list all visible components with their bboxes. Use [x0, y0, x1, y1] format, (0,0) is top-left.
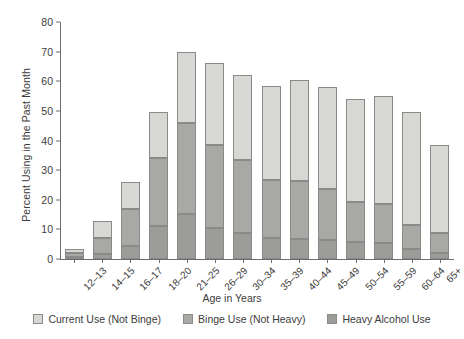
bar-segment-heavy [346, 242, 365, 259]
bar-60-64 [402, 112, 421, 259]
bar-segment-heavy [233, 233, 252, 259]
bar-35-39 [262, 86, 281, 259]
bar-segment-binge [149, 158, 168, 227]
bar-segment-current [93, 221, 112, 239]
y-tick-mark [56, 229, 60, 230]
bar-segment-binge [233, 160, 252, 233]
legend-swatch-binge [183, 314, 193, 324]
bar-segment-current [121, 182, 140, 209]
bar-segment-current [318, 87, 337, 189]
x-tick-label: 21–25 [194, 265, 221, 292]
x-tick-label: 14–15 [109, 265, 136, 292]
bar-segment-binge [177, 123, 196, 214]
bar-55-59 [374, 96, 393, 259]
bar-segment-heavy [177, 214, 196, 259]
x-tick-mark [130, 259, 131, 263]
bar-segment-heavy [290, 239, 309, 259]
x-tick-mark [356, 259, 357, 263]
bar-segment-heavy [205, 228, 224, 259]
y-tick-label: 0 [8, 253, 60, 265]
x-tick-label: 50–54 [363, 265, 390, 292]
y-tick-label: 60 [8, 75, 60, 87]
bar-segment-heavy [318, 240, 337, 259]
bar-segment-current [402, 112, 421, 225]
x-tick-label: 16–17 [137, 265, 164, 292]
bar-segment-binge [318, 189, 337, 241]
bar-65+ [430, 145, 449, 259]
bar-12-13 [65, 249, 84, 259]
bar-segment-binge [402, 225, 421, 249]
y-axis-line [60, 22, 61, 259]
y-tick-mark [56, 110, 60, 111]
y-tick-mark [56, 51, 60, 52]
bar-26-29 [205, 63, 224, 259]
bar-50-54 [346, 99, 365, 259]
x-tick-mark [215, 259, 216, 263]
plot-area: 01020304050607080 [60, 22, 454, 259]
legend-label-heavy: Heavy Alcohol Use [342, 313, 430, 325]
bar-segment-current [262, 86, 281, 180]
y-tick-mark [56, 22, 60, 23]
y-tick-label: 70 [8, 46, 60, 58]
y-tick-label: 30 [8, 164, 60, 176]
alcohol-use-by-age-chart: Percent Using in the Past Month 01020304… [0, 0, 464, 339]
x-tick-mark [440, 259, 441, 263]
legend-item-binge: Binge Use (Not Heavy) [183, 313, 305, 325]
x-tick-mark [271, 259, 272, 263]
bar-segment-heavy [121, 246, 140, 259]
x-tick-mark [327, 259, 328, 263]
x-tick-mark [299, 259, 300, 263]
bar-segment-current [177, 52, 196, 123]
bar-segment-heavy [262, 238, 281, 259]
legend-label-binge: Binge Use (Not Heavy) [198, 313, 305, 325]
x-tick-label: 45–49 [334, 265, 361, 292]
legend-item-current: Current Use (Not Binge) [33, 313, 161, 325]
y-tick-label: 20 [8, 194, 60, 206]
y-tick-mark [56, 81, 60, 82]
bar-segment-heavy [402, 249, 421, 259]
bar-segment-current [149, 112, 168, 157]
bar-segment-binge [430, 233, 449, 254]
legend-swatch-heavy [327, 314, 337, 324]
x-tick-mark [412, 259, 413, 263]
x-tick-label: 30–34 [250, 265, 277, 292]
bar-segment-current [65, 249, 84, 253]
x-tick-label: 60–64 [419, 265, 446, 292]
bar-18-20 [149, 112, 168, 259]
y-tick-label: 40 [8, 135, 60, 147]
x-tick-mark [187, 259, 188, 263]
x-tick-label: 55–59 [391, 265, 418, 292]
x-tick-label: 40–44 [306, 265, 333, 292]
bar-segment-binge [65, 253, 84, 257]
y-tick-label: 10 [8, 223, 60, 235]
bar-21-25 [177, 52, 196, 259]
bar-segment-binge [262, 180, 281, 239]
y-tick-label: 80 [8, 16, 60, 28]
bar-segment-binge [290, 181, 309, 239]
bar-segment-heavy [149, 226, 168, 259]
y-tick-mark [56, 170, 60, 171]
bar-segment-current [205, 63, 224, 144]
bar-segment-current [346, 99, 365, 202]
bar-40-44 [290, 80, 309, 259]
y-tick-mark [56, 199, 60, 200]
x-tick-mark [74, 259, 75, 263]
bar-45-49 [318, 87, 337, 259]
bar-segment-binge [121, 209, 140, 245]
y-tick-mark [56, 140, 60, 141]
bar-30-34 [233, 75, 252, 259]
bar-14-15 [93, 221, 112, 260]
chart-legend: Current Use (Not Binge)Binge Use (Not He… [0, 313, 464, 325]
x-tick-mark [159, 259, 160, 263]
bar-segment-binge [205, 145, 224, 229]
y-tick-label: 50 [8, 105, 60, 117]
bar-segment-current [233, 75, 252, 159]
bar-segment-binge [346, 202, 365, 242]
x-tick-label: 35–39 [278, 265, 305, 292]
x-tick-mark [102, 259, 103, 263]
bar-segment-binge [93, 238, 112, 254]
x-tick-mark [243, 259, 244, 263]
legend-item-heavy: Heavy Alcohol Use [327, 313, 430, 325]
x-tick-mark [384, 259, 385, 263]
legend-label-current: Current Use (Not Binge) [48, 313, 161, 325]
